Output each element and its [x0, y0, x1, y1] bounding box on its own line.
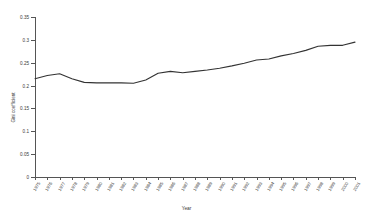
x-axis-tick-label: 1984	[143, 181, 152, 192]
x-axis-tick-label: 1977	[57, 181, 66, 192]
x-axis-tick	[269, 177, 270, 180]
x-axis-tick	[220, 177, 221, 180]
x-axis-tick-label: 1991	[229, 181, 238, 192]
x-axis-tick	[47, 177, 48, 180]
x-axis-tick	[158, 177, 159, 180]
x-axis-tick	[84, 177, 85, 180]
x-axis-tick-label: 1986	[167, 181, 176, 192]
x-axis-tick-label: 1999	[327, 181, 336, 192]
y-axis-tick-label: 0	[0, 175, 29, 180]
x-axis-tick	[109, 177, 110, 180]
x-axis-tick-label: 1975	[32, 181, 41, 192]
x-axis-tick	[257, 177, 258, 180]
x-axis-tick-label: 1980	[94, 181, 103, 192]
x-axis-tick	[232, 177, 233, 180]
x-axis-tick-label: 1976	[44, 181, 53, 192]
x-axis-tick	[330, 177, 331, 180]
x-axis-tick-label: 1983	[131, 181, 140, 192]
x-axis-tick-label: 1987	[180, 181, 189, 192]
x-axis-title: Year	[0, 206, 373, 211]
x-axis-tick-label: 1988	[192, 181, 201, 192]
series-line	[35, 42, 355, 83]
x-axis-tick-label: 1997	[303, 181, 312, 192]
gini-coefficient-line-chart: 00.050.10.150.20.250.30.35 1975197619771…	[0, 0, 373, 221]
x-axis-tick	[183, 177, 184, 180]
x-axis-tick	[355, 177, 356, 180]
x-axis-tick	[35, 177, 36, 180]
x-axis-tick-label: 1995	[278, 181, 287, 192]
x-axis-tick-label: 1978	[69, 181, 78, 192]
x-axis-tick-label: 1996	[291, 181, 300, 192]
x-axis-tick	[195, 177, 196, 180]
x-axis-tick	[60, 177, 61, 180]
x-axis-tick	[146, 177, 147, 180]
series-gini-coefficient	[35, 17, 355, 177]
x-axis-tick	[170, 177, 171, 180]
x-axis-tick	[343, 177, 344, 180]
y-axis-tick-label: 0.3	[0, 37, 29, 42]
x-axis-tick	[306, 177, 307, 180]
x-axis-tick-label: 1981	[106, 181, 115, 192]
x-axis-tick	[97, 177, 98, 180]
x-axis-tick	[244, 177, 245, 180]
x-axis-tick-label: 1992	[241, 181, 250, 192]
x-axis-tick	[121, 177, 122, 180]
x-axis-tick	[318, 177, 319, 180]
x-axis-tick-label: 1982	[118, 181, 127, 192]
x-axis-tick-label: 1989	[204, 181, 213, 192]
x-axis-tick	[72, 177, 73, 180]
x-axis-tick-label: 2000	[340, 181, 349, 192]
y-axis-tick-label: 0.25	[0, 60, 29, 65]
x-axis-tick-label: 2001	[352, 181, 361, 192]
y-axis-tick-label: 0.05	[0, 152, 29, 157]
x-axis-tick	[207, 177, 208, 180]
x-axis-tick-label: 1993	[254, 181, 263, 192]
x-axis-tick-label: 1990	[217, 181, 226, 192]
y-axis-tick-label: 0.35	[0, 15, 29, 20]
x-axis-tick-label: 1994	[266, 181, 275, 192]
x-axis-tick-label: 1979	[81, 181, 90, 192]
x-axis-tick	[281, 177, 282, 180]
y-axis-title: Gini coefficient	[11, 78, 16, 138]
x-axis-tick-label: 1998	[315, 181, 324, 192]
x-axis-tick-label: 1985	[155, 181, 164, 192]
